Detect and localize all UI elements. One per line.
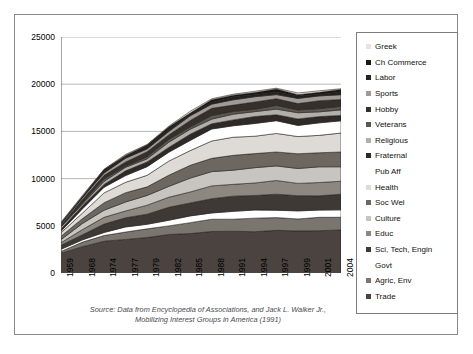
stacked-area-svg <box>61 37 341 273</box>
legend-item-ch-commerce[interactable]: Ch Commerce <box>357 55 457 71</box>
legend-swatch-icon <box>366 153 371 158</box>
legend-item-label: Greek <box>375 42 397 51</box>
legend-item-label: Govt <box>375 261 392 270</box>
x-axis-tick-label: 1994 <box>259 258 269 277</box>
legend-item-labor[interactable]: Labor <box>357 70 457 86</box>
legend-item-pub-aff[interactable]: Pub Aff <box>357 164 457 180</box>
x-axis-tick-label: 1985 <box>194 258 204 277</box>
x-axis-tick-label: 2004 <box>345 258 355 277</box>
legend-swatch-icon <box>366 294 371 299</box>
x-axis-tick-label: 1988 <box>216 258 226 277</box>
legend-swatch-icon <box>366 200 371 205</box>
legend-item-sports[interactable]: Sports <box>357 86 457 102</box>
x-axis-tick-label: 1982 <box>173 258 183 277</box>
x-axis-tick-label: 2001 <box>323 258 333 277</box>
legend-swatch-icon <box>366 138 371 143</box>
x-axis-tick-label: 1979 <box>151 258 161 277</box>
x-axis-tick-label: 1959 <box>65 258 75 277</box>
legend-item-fraternal[interactable]: Fraternal <box>357 148 457 164</box>
source-caption: Source: Data from Encyclopedia of Associ… <box>55 305 361 325</box>
legend-item-hobby[interactable]: Hobby <box>357 101 457 117</box>
legend-item-label: Labor <box>375 73 395 82</box>
legend-item-label: Sci, Tech, Engin <box>375 245 432 254</box>
plot-area: 0500010000150002000025000 19591968197419… <box>61 37 341 273</box>
legend-item-label: Veterans <box>375 120 407 129</box>
legend-swatch-icon <box>366 107 371 112</box>
legend-item-label: Soc Wel <box>375 198 405 207</box>
legend-item-health[interactable]: Health <box>357 179 457 195</box>
legend-item-label: Hobby <box>375 105 398 114</box>
legend-swatch-icon <box>366 60 371 65</box>
legend-swatch-icon <box>366 44 371 49</box>
legend-swatch-icon <box>366 263 371 268</box>
legend-swatch-icon <box>366 216 371 221</box>
legend-item-label: Trade <box>375 292 396 301</box>
legend-item-label: Educ <box>375 229 393 238</box>
legend-item-label: Agric, Env <box>375 276 411 285</box>
legend-swatch-icon <box>366 169 371 174</box>
legend-item-religious[interactable]: Religious <box>357 133 457 149</box>
legend-swatch-icon <box>366 185 371 190</box>
x-axis-tick-label: 1977 <box>130 258 140 277</box>
legend-item-label: Religious <box>375 136 408 145</box>
legend-item-label: Fraternal <box>375 151 407 160</box>
legend-item-culture[interactable]: Culture <box>357 211 457 227</box>
legend-swatch-icon <box>366 122 371 127</box>
x-axis-tick-label: 1968 <box>87 258 97 277</box>
legend-swatch-icon <box>366 231 371 236</box>
legend-swatch-icon <box>366 75 371 80</box>
legend-swatch-icon <box>366 91 371 96</box>
caption-line-1: Source: Data from Encyclopedia of Associ… <box>55 305 361 315</box>
x-axis-tick-label: 1997 <box>280 258 290 277</box>
legend-item-label: Culture <box>375 214 401 223</box>
legend-item-agric-env[interactable]: Agric, Env <box>357 273 457 289</box>
legend-item-govt[interactable]: Govt <box>357 257 457 273</box>
y-axis-tick-label: 25000 <box>9 33 55 41</box>
legend-item-educ[interactable]: Educ <box>357 226 457 242</box>
caption-line-2: Mobilizing Interest Groups in America (1… <box>55 315 361 325</box>
chart-legend: GreekCh CommerceLaborSportsHobbyVeterans… <box>356 32 458 314</box>
legend-swatch-icon <box>366 247 371 252</box>
legend-item-label: Ch Commerce <box>375 58 427 67</box>
legend-item-sci-tech-engin[interactable]: Sci, Tech, Engin <box>357 242 457 258</box>
x-axis-tick-label: 1974 <box>108 258 118 277</box>
y-axis-tick-label: 0 <box>9 269 55 277</box>
legend-item-label: Pub Aff <box>375 167 401 176</box>
x-axis-tick-label: 1999 <box>302 258 312 277</box>
legend-item-veterans[interactable]: Veterans <box>357 117 457 133</box>
legend-item-label: Health <box>375 183 398 192</box>
y-axis-tick-label: 20000 <box>9 80 55 88</box>
x-axis-tick-label: 1991 <box>237 258 247 277</box>
legend-item-label: Sports <box>375 89 398 98</box>
legend-item-greek[interactable]: Greek <box>357 39 457 55</box>
legend-swatch-icon <box>366 278 371 283</box>
chart-frame: 0500010000150002000025000 19591968197419… <box>14 14 458 335</box>
y-axis-tick-label: 10000 <box>9 175 55 183</box>
legend-item-trade[interactable]: Trade <box>357 289 457 305</box>
legend-item-soc-wel[interactable]: Soc Wel <box>357 195 457 211</box>
y-axis-tick-label: 15000 <box>9 127 55 135</box>
y-axis-tick-label: 5000 <box>9 222 55 230</box>
